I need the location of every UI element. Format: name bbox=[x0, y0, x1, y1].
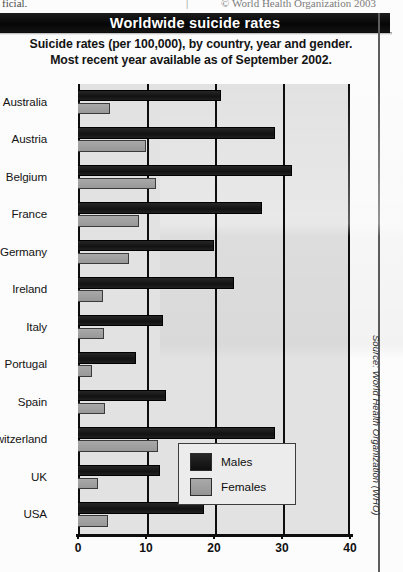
figure-card: Worldwide suicide rates Suicide rates (p… bbox=[0, 13, 390, 572]
category-label-italy: Italy bbox=[26, 320, 47, 333]
category-label-switzerland: Switzerland bbox=[0, 432, 47, 445]
category-label-portugal: Portugal bbox=[5, 357, 47, 370]
category-label-france: France bbox=[12, 207, 47, 220]
x-tick-10 bbox=[145, 534, 147, 539]
x-tick-label-40: 40 bbox=[343, 541, 356, 555]
x-tick-label-10: 10 bbox=[139, 541, 152, 555]
bar-australia-males bbox=[78, 90, 221, 102]
bar-ireland-males bbox=[78, 277, 234, 289]
category-label-spain: Spain bbox=[18, 395, 47, 408]
category-label-austria: Austria bbox=[12, 132, 47, 145]
x-tick-30 bbox=[281, 534, 283, 539]
category-label-usa: USA bbox=[23, 507, 47, 520]
category-label-uk: UK bbox=[31, 470, 47, 483]
bar-switzerland-males bbox=[78, 427, 275, 439]
bar-uk-females bbox=[78, 478, 98, 490]
category-label-belgium: Belgium bbox=[6, 170, 47, 183]
x-tick-20 bbox=[213, 534, 215, 539]
bar-germany-females bbox=[78, 253, 129, 265]
figure-subtitle: Suicide rates (per 100,000), by country,… bbox=[4, 37, 378, 68]
x-tick-label-30: 30 bbox=[275, 541, 288, 555]
figure-subtitle-line-2: Most recent year available as of Septemb… bbox=[4, 53, 378, 69]
legend-item-males: Males bbox=[190, 453, 252, 471]
copyright-notice: © World Health Organization 2003 bbox=[221, 0, 376, 9]
bar-portugal-females bbox=[78, 365, 92, 377]
chart-legend: MalesFemales bbox=[178, 443, 296, 505]
page-header-divider: | bbox=[186, 0, 188, 9]
legend-label-males: Males bbox=[221, 455, 252, 469]
bar-switzerland-females bbox=[78, 440, 158, 452]
bar-germany-males bbox=[78, 240, 214, 252]
x-tick-0 bbox=[77, 534, 79, 539]
legend-swatch-gray bbox=[190, 478, 212, 496]
bar-belgium-males bbox=[78, 165, 292, 177]
bar-portugal-males bbox=[78, 352, 136, 364]
bar-austria-females bbox=[78, 140, 146, 152]
bar-uk-males bbox=[78, 465, 160, 477]
legend-label-females: Females bbox=[221, 480, 266, 494]
figure-title-bar: Worldwide suicide rates bbox=[0, 13, 390, 33]
category-label-australia: Australia bbox=[3, 95, 47, 108]
x-tick-40 bbox=[349, 534, 351, 539]
scanned-page-header: ficial. | © World Health Organization 20… bbox=[0, 0, 403, 13]
x-tick-label-20: 20 bbox=[207, 541, 220, 555]
legend-item-females: Females bbox=[190, 478, 266, 496]
figure-title: Worldwide suicide rates bbox=[0, 15, 390, 31]
bar-france-males bbox=[78, 202, 262, 214]
legend-swatch-black bbox=[190, 453, 212, 471]
figure-subtitle-line-1: Suicide rates (per 100,000), by country,… bbox=[4, 37, 378, 53]
category-label-germany: Germany bbox=[0, 245, 47, 258]
x-tick-label-0: 0 bbox=[75, 541, 82, 555]
bar-france-females bbox=[78, 215, 139, 227]
screenshot-page: ficial. | © World Health Organization 20… bbox=[0, 0, 403, 572]
bar-spain-females bbox=[78, 403, 105, 415]
category-label-ireland: Ireland bbox=[12, 282, 47, 295]
bar-austria-males bbox=[78, 127, 275, 139]
bar-usa-females bbox=[78, 515, 108, 527]
bar-italy-females bbox=[78, 328, 104, 340]
title-bar-shadow bbox=[0, 32, 392, 35]
bar-ireland-females bbox=[78, 290, 103, 302]
bar-chart: 010203040AustraliaAustriaBelgiumFranceGe… bbox=[0, 71, 378, 569]
bar-spain-males bbox=[78, 390, 166, 402]
bar-italy-males bbox=[78, 315, 163, 327]
page-header-left-fragment: ficial. bbox=[2, 0, 27, 9]
bar-australia-females bbox=[78, 103, 110, 115]
bar-belgium-females bbox=[78, 178, 156, 190]
